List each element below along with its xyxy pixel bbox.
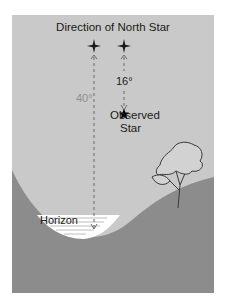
horizon-label: Horizon (40, 214, 78, 226)
angle-40-label: 40° (76, 92, 93, 104)
observed-star-label-line1: Observed (110, 109, 160, 121)
diagram-graphics (12, 15, 214, 293)
north-star-direction-title: Direction of North Star (12, 21, 214, 33)
angle-16-label: 16° (116, 75, 133, 87)
north-star-icon-left (87, 39, 101, 53)
observed-star-label-line2: Star (120, 122, 141, 134)
latitude-40-line (91, 55, 97, 231)
north-star-icon-right (117, 39, 131, 53)
ground-hill (12, 170, 214, 293)
diagram-panel: Direction of North Star 16° 40° Observed… (12, 15, 214, 293)
